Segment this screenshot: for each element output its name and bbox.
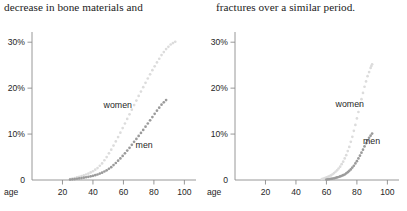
x-tick-label: 80 <box>143 187 165 197</box>
x-tick-label: 80 <box>346 187 368 197</box>
x-tick-label: 100 <box>173 187 195 197</box>
series-label-men: men <box>136 140 153 150</box>
chart-left-plot-area <box>0 22 200 211</box>
y-tick-label: 0 <box>0 175 25 185</box>
x-tick-label: 60 <box>112 187 134 197</box>
series-women <box>321 63 374 181</box>
series-label-men: men <box>363 136 380 146</box>
x-axis-name: age <box>207 187 221 197</box>
series-label-women: women <box>104 100 132 110</box>
y-tick-label: 30% <box>194 37 228 47</box>
x-tick-label: 40 <box>82 187 104 197</box>
figure-container: decrease in bone materials and fractures… <box>0 0 407 211</box>
caption-left: decrease in bone materials and <box>4 1 143 13</box>
caption-right: fractures over a similar period. <box>216 1 355 13</box>
y-tick-label: 30% <box>0 37 25 47</box>
chart-right-plot-area <box>203 22 403 211</box>
y-tick-label: 10% <box>0 129 25 139</box>
chart-right: 010%20%30%20406080100agewomenmen <box>203 22 403 211</box>
x-tick-label: 20 <box>254 187 276 197</box>
y-tick-label: 0 <box>194 175 228 185</box>
x-tick-label: 20 <box>51 187 73 197</box>
x-tick-label: 100 <box>376 187 398 197</box>
y-tick-label: 20% <box>0 83 25 93</box>
x-tick-label: 60 <box>315 187 337 197</box>
x-axis-name: age <box>4 187 18 197</box>
y-tick-label: 20% <box>194 83 228 93</box>
chart-left: 010%20%30%20406080100agewomenmen <box>0 22 200 211</box>
series-women <box>69 40 177 180</box>
x-tick-label: 40 <box>285 187 307 197</box>
series-label-women: women <box>336 99 364 109</box>
y-tick-label: 10% <box>194 129 228 139</box>
